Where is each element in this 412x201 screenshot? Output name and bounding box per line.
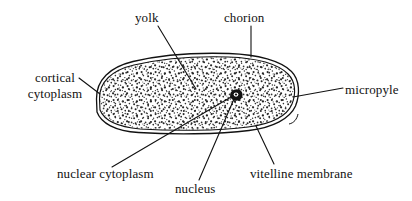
label-nucleus: nucleus (175, 181, 215, 196)
leader-vitelline-membrane (256, 126, 274, 164)
leader-micropyle (293, 88, 343, 97)
label-nuclear-cytoplasm: nuclear cytoplasm (57, 166, 154, 181)
label-micropyle: micropyle (345, 82, 399, 97)
label-cortical-cytoplasm: cortical cytoplasm (17, 70, 93, 102)
label-cortical-cytoplasm-line2: cytoplasm (28, 86, 82, 101)
label-chorion: chorion (224, 10, 264, 25)
label-vitelline-membrane: vitelline membrane (250, 166, 353, 181)
label-yolk: yolk (135, 10, 159, 25)
egg-diagram: cortical cytoplasm yolk chorion micropyl… (0, 0, 412, 201)
chorion-detail (289, 114, 298, 124)
label-cortical-cytoplasm-line1: cortical (35, 70, 75, 85)
